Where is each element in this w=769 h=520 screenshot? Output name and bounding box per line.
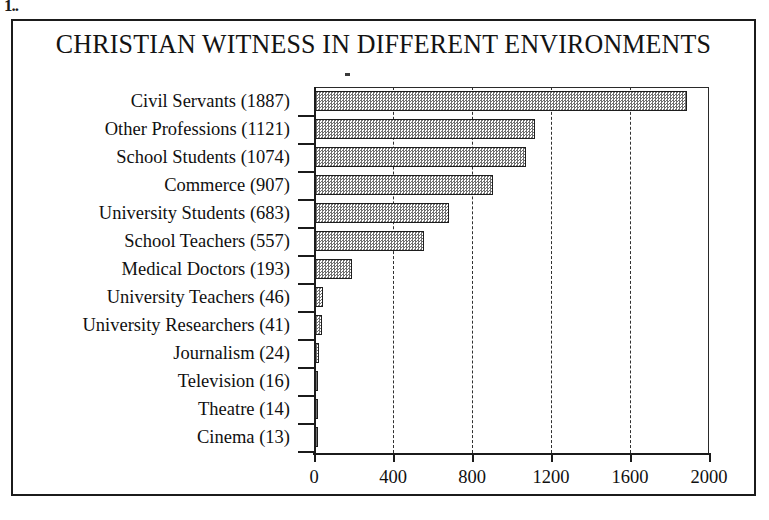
category-label: Theatre (14) xyxy=(13,395,294,423)
x-axis-tick xyxy=(314,453,316,462)
bar-row xyxy=(314,143,709,171)
bar xyxy=(314,259,352,279)
y-axis-tick xyxy=(298,199,314,201)
category-label: University Researchers (41) xyxy=(13,311,294,339)
x-axis-tick xyxy=(551,453,553,462)
bar-row xyxy=(314,255,709,283)
category-label: School Teachers (557) xyxy=(13,227,294,255)
bar-row xyxy=(314,199,709,227)
y-axis-category-labels: Civil Servants (1887)Other Professions (… xyxy=(13,87,294,451)
bar xyxy=(314,231,424,251)
y-axis-tick xyxy=(298,143,314,145)
x-axis-tick-label: 800 xyxy=(458,467,486,488)
bar-row xyxy=(314,423,709,451)
x-axis-tick-label: 1200 xyxy=(533,467,570,488)
category-label: University Teachers (46) xyxy=(13,283,294,311)
y-axis-tick xyxy=(298,367,314,369)
x-axis-tick xyxy=(630,453,632,462)
category-label: School Students (1074) xyxy=(13,143,294,171)
x-axis-tick xyxy=(472,453,474,462)
y-axis-tick xyxy=(298,451,314,453)
x-axis-tick xyxy=(393,453,395,462)
x-axis-tick-label: 2000 xyxy=(691,467,728,488)
figure-frame: CHRISTIAN WITNESS IN DIFFERENT ENVIRONME… xyxy=(11,19,756,496)
bar xyxy=(314,147,526,167)
y-axis-tick xyxy=(298,227,314,229)
bar-row xyxy=(314,367,709,395)
bar-row xyxy=(314,171,709,199)
category-label: University Students (683) xyxy=(13,199,294,227)
bar-row xyxy=(314,311,709,339)
category-label: Cinema (13) xyxy=(13,423,294,451)
y-axis-tick xyxy=(298,339,314,341)
x-axis-tick-label: 0 xyxy=(309,467,318,488)
y-axis-line xyxy=(314,87,316,453)
bar-row xyxy=(314,395,709,423)
category-label: Commerce (907) xyxy=(13,171,294,199)
bar xyxy=(314,119,535,139)
y-axis-tick xyxy=(298,115,314,117)
bar-row xyxy=(314,87,709,115)
scan-artifact: 1.. xyxy=(4,0,18,16)
bar-row xyxy=(314,283,709,311)
y-axis-tick xyxy=(298,395,314,397)
y-axis-tick xyxy=(298,311,314,313)
scan-speck xyxy=(345,73,350,76)
y-axis-tick xyxy=(298,255,314,257)
plot-area: 0400800120016002000 xyxy=(314,87,709,453)
category-label: Journalism (24) xyxy=(13,339,294,367)
bar-row xyxy=(314,227,709,255)
x-axis-line xyxy=(313,453,709,455)
x-axis-tick-label: 400 xyxy=(379,467,407,488)
bar-row xyxy=(314,339,709,367)
category-label: Other Professions (1121) xyxy=(13,115,294,143)
bar xyxy=(314,91,687,111)
bar-row xyxy=(314,115,709,143)
category-label: Television (16) xyxy=(13,367,294,395)
plot-wrapper: Civil Servants (1887)Other Professions (… xyxy=(13,21,754,494)
bar xyxy=(314,175,493,195)
y-axis-tick xyxy=(298,423,314,425)
bar xyxy=(314,203,449,223)
x-axis-tick-label: 1600 xyxy=(612,467,649,488)
category-label: Civil Servants (1887) xyxy=(13,87,294,115)
category-label: Medical Doctors (193) xyxy=(13,255,294,283)
y-axis-tick xyxy=(298,283,314,285)
x-axis-tick xyxy=(709,453,711,462)
y-axis-tick xyxy=(298,171,314,173)
